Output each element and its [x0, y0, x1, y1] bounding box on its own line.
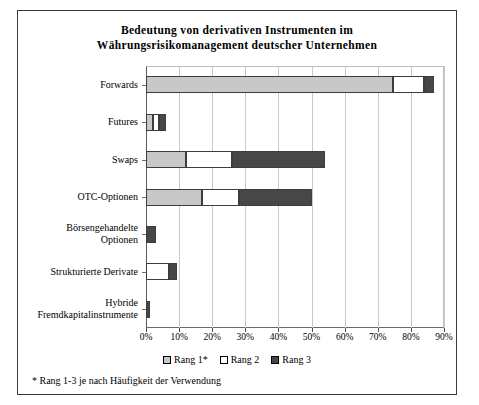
chart-frame: Bedeutung von derivativen Instrumenten i… [17, 10, 457, 395]
legend-label: Rang 2 [231, 354, 260, 365]
bar-segment [146, 114, 153, 131]
category-label: Futures [108, 116, 138, 128]
bar-segment [146, 301, 150, 318]
category-label-line: Börsengehandelte [66, 222, 138, 234]
bar-segment [169, 263, 177, 280]
legend-swatch-icon [220, 356, 228, 364]
x-gridline [444, 66, 445, 328]
bar-segment [146, 76, 393, 93]
bar-segment [159, 114, 166, 131]
legend-swatch-icon [271, 356, 279, 364]
category-label: Forwards [100, 79, 138, 91]
category-label: OTC-Optionen [77, 191, 138, 203]
bar-segment [146, 263, 169, 280]
x-tick-label: 20% [204, 332, 221, 342]
x-gridline [345, 66, 346, 328]
chart-legend: Rang 1*Rang 2Rang 3 [18, 354, 456, 365]
category-label-line: Fremdkapitalinstrumente [37, 309, 138, 321]
category-label: Swaps [112, 154, 138, 166]
x-tick-label: 70% [369, 332, 386, 342]
chart-title-line-1: Bedeutung von derivativen Instrumenten i… [18, 23, 456, 38]
category-label-line: OTC-Optionen [77, 191, 138, 203]
x-tick-label: 30% [237, 332, 254, 342]
chart-footnote: * Rang 1-3 je nach Häufigkeit der Verwen… [32, 375, 221, 386]
legend-swatch-icon [163, 356, 171, 364]
bar-segment [146, 189, 202, 206]
bar-segment [186, 151, 232, 168]
category-label-line: Strukturierte Derivate [51, 266, 138, 278]
category-label-line: Futures [108, 116, 138, 128]
category-label-line: Swaps [112, 154, 138, 166]
x-gridline [312, 66, 313, 328]
legend-item[interactable]: Rang 3 [271, 354, 311, 365]
x-tick-label: 10% [170, 332, 187, 342]
category-label-line: Hybride [37, 297, 138, 309]
bar-segment [239, 189, 312, 206]
x-tick-label: 0% [140, 332, 153, 342]
bar-segment [146, 226, 156, 243]
category-label: HybrideFremdkapitalinstrumente [37, 297, 138, 321]
bar-segment [393, 76, 424, 93]
category-label-line: Optionen [66, 234, 138, 246]
chart-title: Bedeutung von derivativen Instrumenten i… [18, 23, 456, 53]
x-tick-label: 40% [270, 332, 287, 342]
legend-label: Rang 3 [282, 354, 311, 365]
x-tick-label: 50% [303, 332, 320, 342]
category-label: BörsengehandelteOptionen [66, 222, 138, 246]
bar-segment [424, 76, 434, 93]
plot-area: 0%10%20%30%40%50%60%70%80%90% [146, 66, 444, 328]
chart-title-line-2: Währungsrisikomanagement deutscher Unter… [18, 38, 456, 53]
x-tick-label: 90% [435, 332, 452, 342]
x-tick-label: 60% [336, 332, 353, 342]
category-label: Strukturierte Derivate [51, 266, 138, 278]
x-gridline [378, 66, 379, 328]
bar-segment [232, 151, 325, 168]
x-gridline [411, 66, 412, 328]
bar-segment [202, 189, 238, 206]
legend-label: Rang 1* [174, 354, 208, 365]
category-label-line: Forwards [100, 79, 138, 91]
legend-item[interactable]: Rang 1* [163, 354, 208, 365]
x-tick-label: 80% [402, 332, 419, 342]
legend-item[interactable]: Rang 2 [220, 354, 260, 365]
bar-segment [146, 151, 186, 168]
